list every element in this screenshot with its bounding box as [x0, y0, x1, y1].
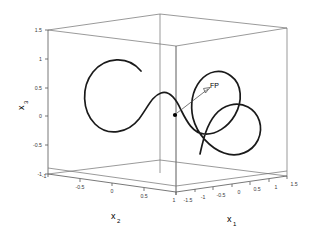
axis-title-x3-sub: 3 — [23, 100, 29, 104]
axis-title-x2: x 2 — [111, 211, 121, 224]
plot-canvas: 1.5 1 0.5 0 -0.5 -1 -1 -0.5 0 0.5 1 — [0, 0, 328, 240]
x1-ticklabel-1: 1 — [275, 184, 278, 190]
x2-ticklabel-0_5: 0.5 — [140, 193, 147, 199]
axis-title-x1-sub: 1 — [233, 221, 237, 227]
x1-ticklabel-0: 0 — [238, 189, 241, 195]
x1-ticklabel-0_5: 0.5 — [253, 186, 260, 192]
x1-ticklabel-m0_5: -0.5 — [217, 192, 226, 198]
bounding-box-3d — [48, 14, 287, 192]
z-ticklabel-0: 0 — [39, 113, 42, 119]
box-top-face — [48, 14, 287, 46]
x2-ticklabel-m1: -1 — [42, 173, 47, 179]
box-bottom-back-edges — [48, 160, 287, 176]
fp-label: FP — [210, 82, 219, 89]
x1-ticklabel-m1_5: -1.5 — [184, 197, 193, 203]
x2-ticklabel-1: 1 — [173, 197, 176, 203]
x2-axis-ticks: -1 -0.5 0 0.5 1 — [42, 173, 176, 203]
x1-ticklabel-m1: -1 — [201, 194, 206, 200]
x2-ticklabel-0: 0 — [111, 188, 114, 194]
trajectory-curve — [85, 60, 261, 155]
axis-title-x2-sub: 2 — [117, 218, 121, 224]
axis-title-x3-base: x — [16, 105, 26, 110]
z-axis-ticks: 1.5 1 0.5 0 -0.5 -1 — [33, 27, 48, 177]
x2-ticklabel-m0_5: -0.5 — [76, 184, 85, 190]
z-ticklabel-1_5: 1.5 — [35, 27, 42, 33]
axis-title-x1: x 1 — [227, 214, 237, 227]
z-ticklabel-1: 1 — [39, 56, 42, 62]
fixed-point-marker — [173, 113, 177, 117]
axis-title-x3: x 3 — [16, 100, 29, 110]
axis-title-x2-base: x — [111, 211, 116, 221]
axis-title-x1-base: x — [227, 214, 232, 224]
z-ticklabel-0_5: 0.5 — [35, 85, 42, 91]
z-ticklabel-m0_5: -0.5 — [33, 142, 42, 148]
figure-3d-phase-plot: 1.5 1 0.5 0 -0.5 -1 -1 -0.5 0 0.5 1 — [0, 0, 328, 240]
x1-ticklabel-1_5: 1.5 — [290, 181, 297, 187]
